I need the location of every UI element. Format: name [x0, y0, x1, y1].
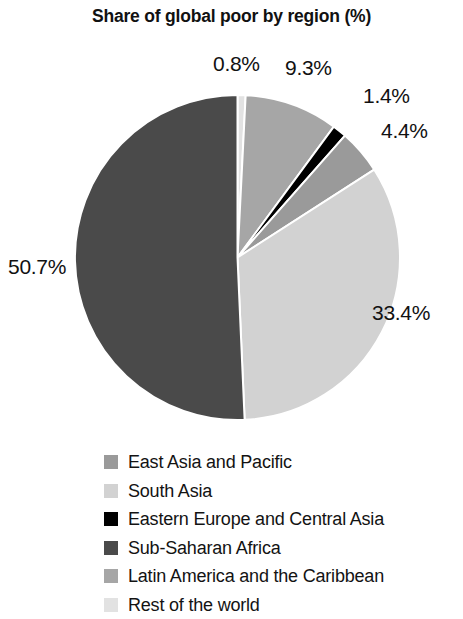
legend-label-eastern-europe-and-central-asia: Eastern Europe and Central Asia: [128, 510, 384, 528]
legend-item-east-asia-and-pacific: East Asia and Pacific: [104, 448, 463, 477]
legend-label-east-asia-and-pacific: East Asia and Pacific: [128, 453, 292, 471]
legend-label-latin-america-and-the-caribbean: Latin America and the Caribbean: [128, 567, 384, 585]
legend-swatch-eastern-europe-and-central-asia: [104, 512, 118, 526]
slice-label-sub-saharan-africa: 50.7%: [8, 255, 66, 279]
legend-swatch-latin-america-and-the-caribbean: [104, 569, 118, 583]
chart-legend: East Asia and PacificSouth AsiaEastern E…: [104, 448, 463, 619]
legend-swatch-south-asia: [104, 484, 118, 498]
legend-item-rest-of-the-world: Rest of the world: [104, 591, 463, 619]
legend-item-south-asia: South Asia: [104, 477, 463, 506]
pie-slice-sub-saharan-africa: [75, 95, 245, 420]
slice-label-latin-america-and-the-caribbean: 9.3%: [285, 56, 332, 80]
legend-swatch-east-asia-and-pacific: [104, 455, 118, 469]
pie-slice-group: [75, 95, 400, 420]
legend-label-rest-of-the-world: Rest of the world: [128, 596, 260, 614]
legend-label-south-asia: South Asia: [128, 482, 212, 500]
pie-plot-area: 0.8% 9.3% 1.4% 4.4% 33.4% 50.7%: [0, 0, 463, 440]
legend-label-sub-saharan-africa: Sub-Saharan Africa: [128, 539, 281, 557]
slice-label-rest-of-the-world: 0.8%: [213, 52, 260, 76]
legend-item-eastern-europe-and-central-asia: Eastern Europe and Central Asia: [104, 505, 463, 534]
legend-item-latin-america-and-the-caribbean: Latin America and the Caribbean: [104, 562, 463, 591]
pie-chart-figure: Share of global poor by region (%) 0.8% …: [0, 0, 463, 619]
legend-swatch-sub-saharan-africa: [104, 541, 118, 555]
slice-label-east-asia-and-pacific: 4.4%: [381, 119, 428, 143]
legend-item-sub-saharan-africa: Sub-Saharan Africa: [104, 534, 463, 563]
slice-label-south-asia: 33.4%: [372, 301, 430, 325]
slice-label-eastern-europe-and-central-asia: 1.4%: [363, 84, 410, 108]
legend-swatch-rest-of-the-world: [104, 598, 118, 612]
